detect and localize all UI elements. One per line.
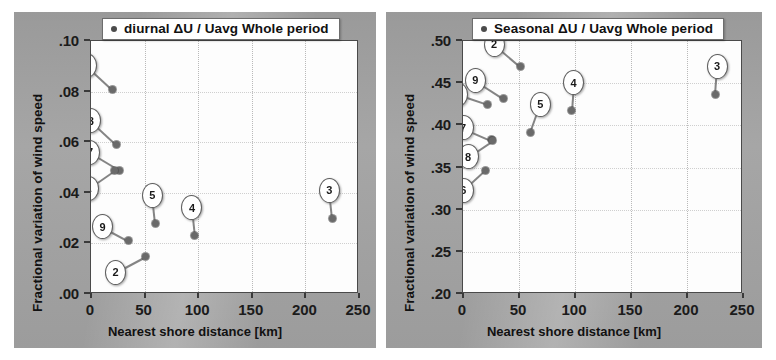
x-tick-label: 250 xyxy=(345,301,370,318)
x-tick-mark xyxy=(144,293,146,298)
data-point-label-2: 2 xyxy=(484,40,505,57)
y-tick-mark xyxy=(456,39,462,41)
x-axis-title: Nearest shore distance [km] xyxy=(386,324,762,339)
legend-label: diurnal ΔU / Uavg Whole period xyxy=(124,21,329,36)
data-point-label-7: 7 xyxy=(462,115,474,140)
y-tick-label: .08 xyxy=(59,82,79,99)
y-tick-mark xyxy=(456,250,462,252)
y-tick-mark xyxy=(456,292,462,294)
x-tick-mark xyxy=(574,293,576,298)
x-tick-label: 250 xyxy=(729,301,754,318)
data-point-label-9: 9 xyxy=(465,68,486,93)
data-point-label-3: 3 xyxy=(707,54,728,79)
x-tick-mark xyxy=(304,293,306,298)
gridline-horizontal xyxy=(463,168,741,169)
y-tick-label: .35 xyxy=(431,158,451,175)
x-tick-mark xyxy=(90,293,92,298)
y-tick-mark xyxy=(456,166,462,168)
y-tick-label: .25 xyxy=(431,242,451,259)
gridline-vertical xyxy=(252,41,253,292)
data-point-label-5: 5 xyxy=(142,183,163,208)
gridline-horizontal xyxy=(91,243,357,244)
data-point-marker xyxy=(482,167,489,174)
y-tick-mark xyxy=(84,241,90,243)
y-tick-label: .20 xyxy=(431,285,451,302)
data-point-marker xyxy=(712,91,719,98)
data-point-label-3: 3 xyxy=(319,178,340,203)
y-tick-label: .02 xyxy=(59,234,79,251)
data-point-marker xyxy=(142,253,149,260)
x-tick-mark xyxy=(462,293,464,298)
gridline-horizontal xyxy=(463,210,741,211)
y-tick-mark xyxy=(84,191,90,193)
x-tick-label: 50 xyxy=(135,301,152,318)
y-axis-title: Fractional variation of wind speed xyxy=(30,94,45,312)
x-tick-mark xyxy=(686,293,688,298)
gridline-vertical xyxy=(687,41,688,292)
data-point-marker xyxy=(517,63,524,70)
x-tick-label: 150 xyxy=(238,301,263,318)
gridline-horizontal xyxy=(91,193,357,194)
data-point-label-2: 2 xyxy=(105,260,126,285)
plot-area-right: 291786543 xyxy=(462,40,742,293)
legend-left: diurnal ΔU / Uavg Whole period xyxy=(102,18,340,40)
data-point-label-5: 5 xyxy=(530,92,551,117)
x-tick-label: 200 xyxy=(292,301,317,318)
legend-label: Seasonal ΔU / Uavg Whole period xyxy=(494,21,713,36)
y-tick-mark xyxy=(84,292,90,294)
data-point-marker xyxy=(329,215,336,222)
y-tick-label: .30 xyxy=(431,200,451,217)
y-tick-label: .50 xyxy=(431,32,451,49)
data-point-marker xyxy=(527,129,534,136)
y-tick-label: .40 xyxy=(431,116,451,133)
gridline-horizontal xyxy=(91,92,357,93)
data-point-marker xyxy=(152,220,159,227)
data-point-marker xyxy=(489,137,496,144)
legend-right: Seasonal ΔU / Uavg Whole period xyxy=(472,18,724,40)
data-point-marker xyxy=(111,167,118,174)
gridline-horizontal xyxy=(463,252,741,253)
x-axis-title: Nearest shore distance [km] xyxy=(14,324,376,339)
x-tick-label: 150 xyxy=(617,301,642,318)
gridline-horizontal xyxy=(463,83,741,84)
x-tick-label: 200 xyxy=(673,301,698,318)
data-point-label-8: 8 xyxy=(462,144,479,169)
gridline-horizontal xyxy=(91,142,357,143)
y-tick-mark xyxy=(84,140,90,142)
data-point-label-7: 7 xyxy=(90,140,100,165)
x-tick-mark xyxy=(518,293,520,298)
y-tick-mark xyxy=(84,90,90,92)
data-point-marker xyxy=(500,95,507,102)
x-tick-label: 0 xyxy=(86,301,94,318)
data-point-label-4: 4 xyxy=(563,70,584,95)
x-tick-mark xyxy=(197,293,199,298)
x-tick-mark xyxy=(358,293,360,298)
y-tick-label: .04 xyxy=(59,183,79,200)
data-point-marker xyxy=(484,101,491,108)
data-point-label-4: 4 xyxy=(181,195,202,220)
x-tick-label: 100 xyxy=(185,301,210,318)
x-tick-label: 100 xyxy=(561,301,586,318)
chart-panel-left: Fractional variation of wind speed 68719… xyxy=(14,12,376,348)
gridline-vertical xyxy=(305,41,306,292)
gridline-vertical xyxy=(519,41,520,292)
data-point-marker xyxy=(113,141,120,148)
plot-area-left: 687192543 xyxy=(90,40,358,293)
data-point-label-1: 1 xyxy=(90,176,99,201)
data-point-label-9: 9 xyxy=(92,214,113,239)
legend-marker-icon xyxy=(481,26,487,32)
y-tick-mark xyxy=(84,39,90,41)
y-tick-label: .10 xyxy=(59,32,79,49)
x-tick-mark xyxy=(251,293,253,298)
y-tick-mark xyxy=(456,123,462,125)
gridline-horizontal xyxy=(463,125,741,126)
chart-panel-right: Fractional variation of wind speed 29178… xyxy=(386,12,762,348)
y-axis-title: Fractional variation of wind speed xyxy=(402,94,417,312)
y-tick-mark xyxy=(456,208,462,210)
x-tick-label: 0 xyxy=(458,301,466,318)
gridline-vertical xyxy=(198,41,199,292)
y-tick-label: .00 xyxy=(59,285,79,302)
x-tick-mark xyxy=(742,293,744,298)
y-tick-label: .06 xyxy=(59,133,79,150)
data-point-marker xyxy=(109,86,116,93)
